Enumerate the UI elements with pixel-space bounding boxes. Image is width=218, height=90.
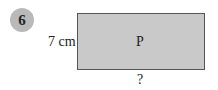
width-unknown-label: ? [137, 72, 143, 88]
shape-name-label: P [136, 34, 144, 50]
height-label: 7 cm [48, 34, 76, 50]
problem-number-badge: 6 [10, 8, 34, 32]
problem-number: 6 [18, 12, 26, 29]
